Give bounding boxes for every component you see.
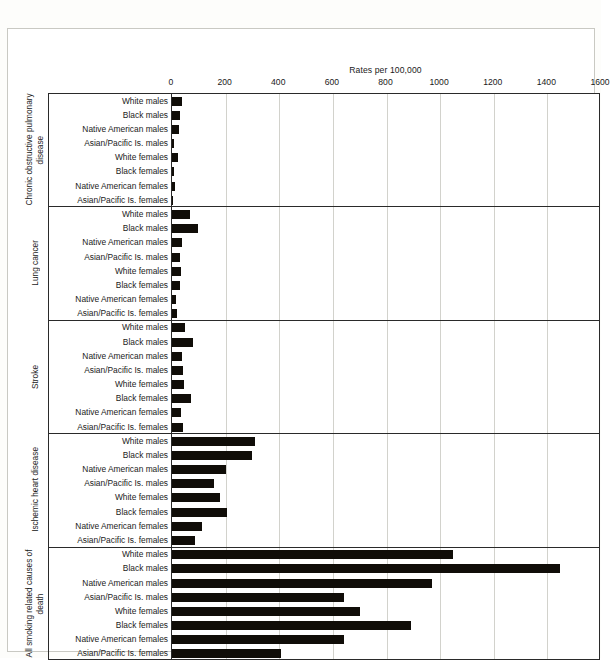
bar [172, 366, 183, 375]
category-label: Native American males [82, 351, 168, 361]
category-label: Native American males [82, 578, 168, 588]
category-label: Black males [123, 223, 168, 233]
bar [172, 550, 453, 559]
bar [172, 408, 181, 417]
gridline-800 [387, 94, 388, 659]
category-label: Asian/Pacific Is. females [77, 535, 168, 545]
group-name-0: Chronic obstructive pulmonary disease [22, 93, 48, 206]
bar [172, 437, 255, 446]
bar [172, 536, 195, 545]
gridlines [172, 94, 599, 659]
group-name-4: All smoking related causes of death [22, 547, 48, 660]
group-name-label: Ischemic heart disease [30, 447, 41, 532]
category-label: Black females [116, 280, 168, 290]
category-label: Native American females [75, 294, 168, 304]
group-name-1: Lung cancer [22, 206, 48, 319]
bar [172, 139, 174, 148]
category-label-column: White malesBlack malesNative American ma… [48, 93, 171, 660]
group-name-label: Chronic obstructive pulmonary disease [24, 93, 46, 206]
gridline-200 [226, 94, 227, 659]
bar [172, 295, 176, 304]
bar [172, 479, 214, 488]
chart-frame: Rates per 100,000 0200400600800100012001… [7, 28, 595, 652]
group-name-3: Ischemic heart disease [22, 433, 48, 546]
category-label: Native American males [82, 464, 168, 474]
bar [172, 423, 183, 432]
category-label: Asian/Pacific Is. males [84, 138, 168, 148]
group-separator [48, 547, 600, 548]
group-name-2: Stroke [22, 320, 48, 433]
bar [172, 182, 175, 191]
bar [172, 253, 180, 262]
bar [172, 522, 202, 531]
bar [172, 451, 252, 460]
x-axis-tick-labels: 02004006008001000120014001600 [8, 77, 609, 90]
category-label: Native American females [75, 521, 168, 531]
bar [172, 309, 177, 318]
bar [172, 97, 182, 106]
bar [172, 607, 360, 616]
category-label: Native American females [75, 634, 168, 644]
category-label: Black males [123, 337, 168, 347]
bar [172, 338, 193, 347]
category-label: White females [115, 266, 168, 276]
category-label: White males [122, 436, 168, 446]
bar [172, 153, 178, 162]
bar [172, 621, 411, 630]
bar [172, 224, 198, 233]
x-tick-label-400: 400 [271, 77, 285, 87]
group-separator [48, 433, 600, 434]
x-tick-label-0: 0 [169, 77, 174, 87]
x-tick-label-1400: 1400 [537, 77, 556, 87]
x-tick-label-1200: 1200 [483, 77, 502, 87]
category-label: Black females [116, 507, 168, 517]
group-name-label: Stroke [30, 365, 41, 389]
bar [172, 593, 344, 602]
bar [172, 579, 432, 588]
x-tick-label-800: 800 [378, 77, 392, 87]
category-label: White females [115, 606, 168, 616]
bar [172, 267, 181, 276]
category-label: Native American males [82, 124, 168, 134]
bar [172, 394, 191, 403]
bar [172, 564, 560, 573]
category-label: Black males [123, 450, 168, 460]
x-axis-title: Rates per 100,000 [171, 65, 600, 75]
bar [172, 380, 184, 389]
x-tick-label-1000: 1000 [430, 77, 449, 87]
x-tick-label-200: 200 [217, 77, 231, 87]
category-label: Black males [123, 563, 168, 573]
category-label: White males [122, 96, 168, 106]
category-label: Black males [123, 110, 168, 120]
category-label: Black females [116, 393, 168, 403]
category-label: Black females [116, 166, 168, 176]
bar [172, 465, 226, 474]
bar [172, 649, 281, 658]
gridline-1400 [547, 94, 548, 659]
group-name-label: All smoking related causes of death [24, 547, 46, 660]
category-label: White males [122, 209, 168, 219]
category-label: Asian/Pacific Is. females [77, 308, 168, 318]
group-separator [48, 206, 600, 207]
group-name-column: Chronic obstructive pulmonary diseaseLun… [22, 93, 48, 660]
bar [172, 281, 180, 290]
category-label: Asian/Pacific Is. males [84, 365, 168, 375]
bar [172, 323, 185, 332]
category-label: Asian/Pacific Is. females [77, 422, 168, 432]
category-label: Native American males [82, 237, 168, 247]
category-label: White females [115, 492, 168, 502]
bar [172, 635, 344, 644]
bar [172, 238, 182, 247]
category-label: White males [122, 549, 168, 559]
bar [172, 111, 180, 120]
category-label: Asian/Pacific Is. males [84, 478, 168, 488]
group-separator [48, 320, 600, 321]
category-label: Black females [116, 620, 168, 630]
plot-area [171, 93, 600, 660]
bar [172, 508, 227, 517]
gridline-600 [333, 94, 334, 659]
gridline-400 [279, 94, 280, 659]
bar [172, 352, 182, 361]
bar [172, 196, 173, 205]
group-name-label: Lung cancer [30, 240, 41, 286]
